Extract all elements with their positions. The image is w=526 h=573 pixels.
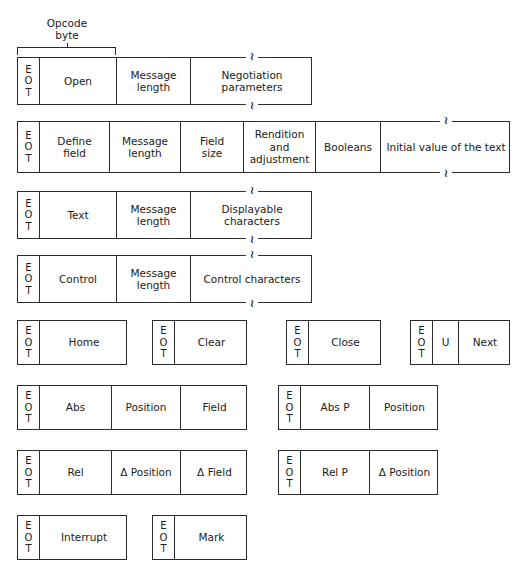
open-message-message-length: Message length bbox=[117, 58, 191, 104]
eot-letter-3: T bbox=[160, 543, 166, 555]
close-message-eot: EOT bbox=[287, 321, 309, 364]
control-message-payload: Control characters bbox=[191, 256, 313, 302]
define-field-message-eot: EOT bbox=[18, 122, 40, 172]
interrupt-message-eot: EOT bbox=[18, 516, 40, 559]
eot-letter-3: T bbox=[25, 413, 31, 425]
eot-letter-3: T bbox=[25, 478, 31, 490]
eot-letter-1: E bbox=[294, 325, 300, 337]
mark-message-opcode: Mark bbox=[175, 516, 248, 559]
eot-letter-2: O bbox=[25, 402, 33, 414]
clear-message-eot: EOT bbox=[153, 321, 175, 364]
interrupt-message: EOTInterrupt bbox=[17, 515, 127, 560]
abs-message-eot: EOT bbox=[18, 386, 40, 429]
define-field-message-field-size: Field size bbox=[181, 122, 244, 172]
define-field-message-opcode: Define field bbox=[40, 122, 110, 172]
control-message-opcode: Control bbox=[40, 256, 117, 302]
eot-letter-3: T bbox=[25, 87, 31, 99]
define-field-message-message-length: Message length bbox=[110, 122, 181, 172]
eot-letter-2: O bbox=[286, 467, 294, 479]
opcode-byte-bracket bbox=[17, 47, 116, 55]
abs-p-message-position: Position bbox=[370, 386, 439, 429]
eot-letter-3: T bbox=[286, 413, 292, 425]
next-message-eot: EOT bbox=[411, 321, 433, 364]
next-message: EOTUNext bbox=[410, 320, 510, 365]
rel-message-eot: EOT bbox=[18, 451, 40, 494]
define-field-message: EOTDefine fieldMessage lengthField sizeR… bbox=[17, 121, 510, 173]
eot-letter-2: O bbox=[418, 337, 426, 349]
open-message-payload: Negotiation parameters bbox=[191, 58, 313, 104]
eot-letter-2: O bbox=[160, 532, 168, 544]
eot-letter-1: E bbox=[418, 325, 424, 337]
eot-letter-2: O bbox=[25, 467, 33, 479]
abs-message: EOTAbsPositionField bbox=[17, 385, 247, 430]
eot-letter-3: T bbox=[25, 153, 31, 165]
rel-message-delta-position: Δ Position bbox=[112, 451, 181, 494]
eot-letter-2: O bbox=[160, 337, 168, 349]
protocol-message-format-diagram: Opcode byte EOTOpenMessage lengthNegotia… bbox=[0, 0, 526, 573]
rel-message-opcode: Rel bbox=[40, 451, 112, 494]
define-field-message-payload: Initial value of the text bbox=[381, 122, 511, 172]
mark-message: EOTMark bbox=[152, 515, 247, 560]
abs-p-message: EOTAbs PPosition bbox=[278, 385, 438, 430]
eot-letter-2: O bbox=[25, 75, 33, 87]
text-message-eot: EOT bbox=[18, 192, 40, 238]
eot-letter-3: T bbox=[160, 348, 166, 360]
rel-p-message-opcode: Rel P bbox=[301, 451, 370, 494]
control-message-eot: EOT bbox=[18, 256, 40, 302]
home-message-eot: EOT bbox=[18, 321, 40, 364]
eot-letter-1: E bbox=[286, 455, 292, 467]
eot-letter-3: T bbox=[25, 221, 31, 233]
eot-letter-3: T bbox=[294, 348, 300, 360]
rel-message: EOTRelΔ PositionΔ Field bbox=[17, 450, 247, 495]
close-message-opcode: Close bbox=[309, 321, 382, 364]
rel-p-message-eot: EOT bbox=[279, 451, 301, 494]
eot-letter-3: T bbox=[418, 348, 424, 360]
eot-letter-2: O bbox=[25, 337, 33, 349]
eot-letter-2: O bbox=[25, 141, 33, 153]
eot-letter-2: O bbox=[25, 209, 33, 221]
abs-p-message-eot: EOT bbox=[279, 386, 301, 429]
open-message-opcode: Open bbox=[40, 58, 117, 104]
next-message-flag: U bbox=[433, 321, 459, 364]
home-message-opcode: Home bbox=[40, 321, 128, 364]
eot-letter-1: E bbox=[160, 325, 166, 337]
eot-letter-1: E bbox=[25, 262, 31, 274]
eot-letter-1: E bbox=[25, 390, 31, 402]
eot-letter-3: T bbox=[25, 543, 31, 555]
opcode-byte-annotation-label: Opcode byte bbox=[37, 17, 97, 41]
abs-message-position: Position bbox=[112, 386, 181, 429]
text-message-opcode: Text bbox=[40, 192, 117, 238]
home-message: EOTHome bbox=[17, 320, 127, 365]
eot-letter-1: E bbox=[25, 520, 31, 532]
abs-message-opcode: Abs bbox=[40, 386, 112, 429]
eot-letter-1: E bbox=[25, 64, 31, 76]
eot-letter-3: T bbox=[286, 478, 292, 490]
abs-p-message-opcode: Abs P bbox=[301, 386, 370, 429]
eot-letter-3: T bbox=[25, 348, 31, 360]
eot-letter-2: O bbox=[286, 402, 294, 414]
eot-letter-1: E bbox=[286, 390, 292, 402]
eot-letter-2: O bbox=[294, 337, 302, 349]
open-message: EOTOpenMessage lengthNegotiation paramet… bbox=[17, 57, 312, 105]
rel-p-message-delta-position: Δ Position bbox=[370, 451, 439, 494]
eot-letter-1: E bbox=[25, 325, 31, 337]
mark-message-eot: EOT bbox=[153, 516, 175, 559]
define-field-message-booleans: Booleans bbox=[316, 122, 381, 172]
define-field-message-rendition-adjustment: Rendition and adjustment bbox=[244, 122, 316, 172]
close-message: EOTClose bbox=[286, 320, 381, 365]
eot-letter-1: E bbox=[160, 520, 166, 532]
rel-message-delta-field: Δ Field bbox=[181, 451, 248, 494]
eot-letter-1: E bbox=[25, 198, 31, 210]
eot-letter-3: T bbox=[25, 285, 31, 297]
next-message-opcode: Next bbox=[459, 321, 511, 364]
eot-letter-1: E bbox=[25, 130, 31, 142]
clear-message-opcode: Clear bbox=[175, 321, 248, 364]
interrupt-message-opcode: Interrupt bbox=[40, 516, 128, 559]
eot-letter-1: E bbox=[25, 455, 31, 467]
abs-message-field: Field bbox=[181, 386, 248, 429]
control-message: EOTControlMessage lengthControl characte… bbox=[17, 255, 312, 303]
eot-letter-2: O bbox=[25, 273, 33, 285]
clear-message: EOTClear bbox=[152, 320, 247, 365]
control-message-message-length: Message length bbox=[117, 256, 191, 302]
open-message-eot: EOT bbox=[18, 58, 40, 104]
